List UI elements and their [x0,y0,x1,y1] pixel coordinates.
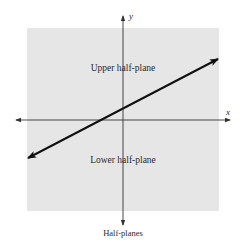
lower-half-plane-label: Lower half-plane [90,155,156,165]
upper-half-plane-label: Upper half-plane [91,63,156,73]
y-axis-label: y [129,11,133,21]
x-axis-label: x [226,107,230,117]
figure-caption: Half-planes [103,228,143,238]
coordinate-axes-figure [0,0,247,251]
